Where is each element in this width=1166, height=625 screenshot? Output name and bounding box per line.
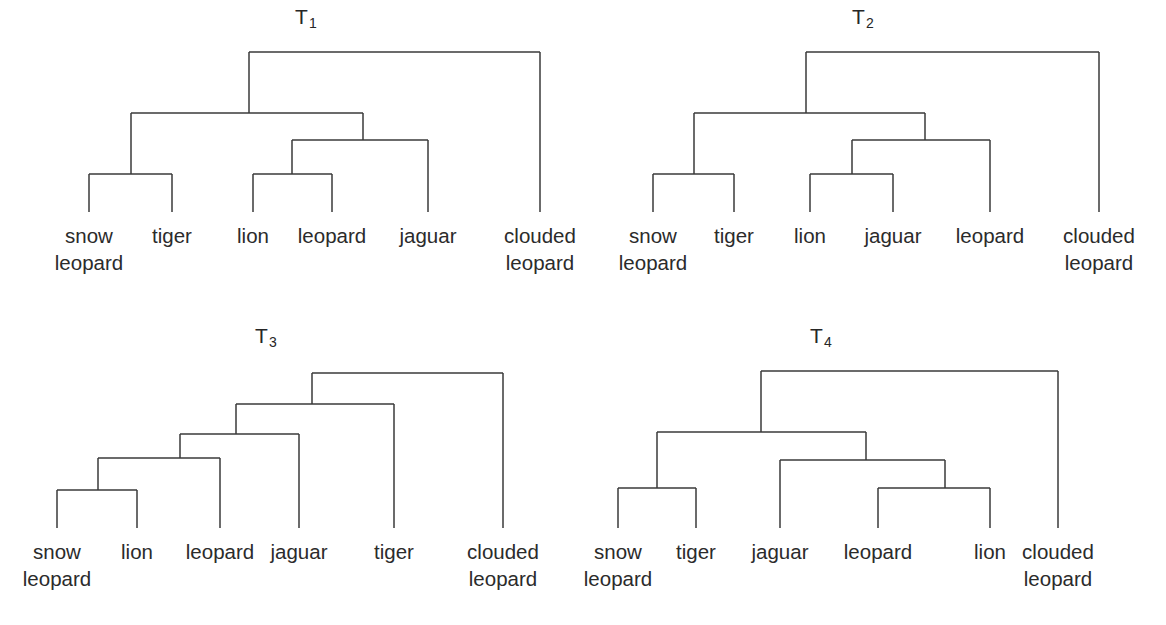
tree-t3-branches <box>57 373 503 528</box>
leaf-line1: tiger <box>714 224 754 247</box>
tree-title-t2-subscript: 2 <box>865 15 874 31</box>
leaf-label-t2-leopard: leopard <box>956 222 1024 249</box>
leaf-label-t4-leopard: leopard <box>844 538 912 565</box>
leaf-line1: lion <box>794 224 826 247</box>
tree-title-t4-subscript: 4 <box>823 334 832 350</box>
leaf-line1: snow <box>33 540 81 563</box>
leaf-line1: leopard <box>844 540 912 563</box>
leaf-line1: snow <box>594 540 642 563</box>
leaf-line2: leopard <box>23 565 91 592</box>
tree-title-t4: T4 <box>810 324 832 350</box>
leaf-line1: tiger <box>676 540 716 563</box>
tree-title-t3-subscript: 3 <box>268 334 277 350</box>
tree-title-t1: T1 <box>295 5 317 31</box>
tree-t4-branches <box>618 371 1058 528</box>
leaf-label-t3-tiger: tiger <box>374 538 414 565</box>
leaf-label-t4-tiger: tiger <box>676 538 716 565</box>
leaf-label-t1-snow-leopard: snow leopard <box>55 222 123 276</box>
leaf-line1: clouded <box>504 224 576 247</box>
leaf-line2: leopard <box>1063 249 1135 276</box>
leaf-label-t2-jaguar: jaguar <box>865 222 922 249</box>
tree-t2-branches <box>653 52 1099 212</box>
leaf-line2: leopard <box>1022 565 1094 592</box>
leaf-line2: leopard <box>55 249 123 276</box>
leaf-label-t1-clouded-leopard: clouded leopard <box>504 222 576 276</box>
leaf-label-t3-lion: lion <box>121 538 153 565</box>
leaf-label-t4-lion: lion <box>974 538 1006 565</box>
tree-title-t2: T2 <box>852 5 874 31</box>
leaf-label-t3-leopard: leopard <box>186 538 254 565</box>
leaf-label-t3-jaguar: jaguar <box>271 538 328 565</box>
tree-lines-svg <box>0 0 1166 625</box>
leaf-line1: leopard <box>186 540 254 563</box>
leaf-line1: jaguar <box>865 224 922 247</box>
leaf-label-t2-lion: lion <box>794 222 826 249</box>
leaf-line1: tiger <box>152 224 192 247</box>
leaf-label-t1-leopard: leopard <box>298 222 366 249</box>
leaf-line1: jaguar <box>400 224 457 247</box>
leaf-label-t2-clouded-leopard: clouded leopard <box>1063 222 1135 276</box>
tree-title-t1-subscript: 1 <box>308 15 317 31</box>
leaf-line1: jaguar <box>271 540 328 563</box>
leaf-line1: leopard <box>298 224 366 247</box>
leaf-line1: snow <box>65 224 113 247</box>
leaf-line1: jaguar <box>752 540 809 563</box>
leaf-line1: lion <box>237 224 269 247</box>
tree-title-t3-main: T <box>255 324 268 347</box>
leaf-label-t4-jaguar: jaguar <box>752 538 809 565</box>
leaf-label-t3-snow-leopard: snow leopard <box>23 538 91 592</box>
leaf-line1: lion <box>974 540 1006 563</box>
leaf-line1: clouded <box>467 540 539 563</box>
tree-t1-branches <box>89 52 540 212</box>
leaf-line2: leopard <box>504 249 576 276</box>
leaf-line1: snow <box>629 224 677 247</box>
leaf-label-t1-lion: lion <box>237 222 269 249</box>
tree-title-t3: T3 <box>255 324 277 350</box>
leaf-label-t2-snow-leopard: snow leopard <box>619 222 687 276</box>
leaf-line2: leopard <box>619 249 687 276</box>
leaf-line1: leopard <box>956 224 1024 247</box>
leaf-label-t1-tiger: tiger <box>152 222 192 249</box>
leaf-line1: clouded <box>1022 540 1094 563</box>
tree-title-t1-main: T <box>295 5 308 28</box>
leaf-line1: lion <box>121 540 153 563</box>
leaf-line2: leopard <box>467 565 539 592</box>
tree-title-t2-main: T <box>852 5 865 28</box>
leaf-label-t3-clouded-leopard: clouded leopard <box>467 538 539 592</box>
leaf-line1: tiger <box>374 540 414 563</box>
leaf-label-t2-tiger: tiger <box>714 222 754 249</box>
leaf-label-t1-jaguar: jaguar <box>400 222 457 249</box>
leaf-line1: clouded <box>1063 224 1135 247</box>
leaf-line2: leopard <box>584 565 652 592</box>
leaf-label-t4-snow-leopard: snow leopard <box>584 538 652 592</box>
tree-title-t4-main: T <box>810 324 823 347</box>
figure-canvas: T1 snow leopard tiger lion leopard jagua… <box>0 0 1166 625</box>
leaf-label-t4-clouded-leopard: clouded leopard <box>1022 538 1094 592</box>
